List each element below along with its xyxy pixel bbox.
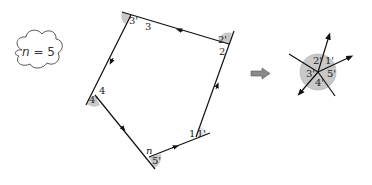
cloud-var: n bbox=[22, 45, 30, 59]
exterior-angle-wedges bbox=[87, 12, 232, 168]
cloud-bubble: n = 5 bbox=[15, 30, 62, 68]
exterior-label-3: 3' bbox=[129, 15, 138, 26]
polygon-exterior-angles-diagram: n = 5 3' 3 2' bbox=[0, 0, 372, 185]
right-arrow-icon bbox=[251, 68, 270, 79]
star-label-2: 2' bbox=[313, 55, 322, 66]
interior-label-4: 4 bbox=[99, 85, 105, 96]
svg-text:n = 5: n = 5 bbox=[22, 45, 55, 59]
star-label-3: 3' bbox=[306, 68, 315, 79]
exterior-angles-star: 2' 1' 3' 5' 4' bbox=[289, 36, 350, 96]
star-label-4: 4' bbox=[315, 77, 324, 88]
star-label-1: 1' bbox=[325, 55, 334, 66]
exterior-label-4: 4' bbox=[89, 94, 98, 105]
interior-label-1: 1 bbox=[189, 128, 195, 139]
interior-label-n: n bbox=[146, 145, 152, 156]
exterior-label-5: 5' bbox=[152, 155, 161, 166]
exterior-label-2: 2' bbox=[218, 34, 227, 45]
interior-label-2: 2 bbox=[219, 46, 225, 57]
interior-label-3: 3 bbox=[145, 21, 151, 32]
exterior-label-1: 1' bbox=[197, 128, 206, 139]
cloud-eq: = 5 bbox=[30, 45, 55, 59]
star-label-5: 5' bbox=[327, 68, 336, 79]
polygon-edges bbox=[86, 12, 234, 169]
